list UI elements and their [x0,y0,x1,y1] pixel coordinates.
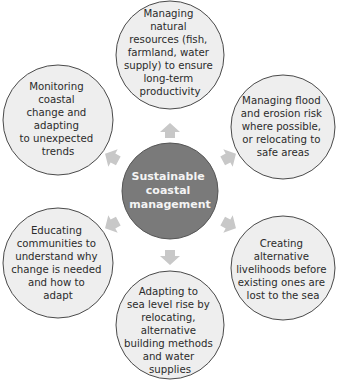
node-managing-flood-erosion-risk: Managing flood and erosion risk where po… [231,75,335,179]
arrow-down-icon [160,250,180,265]
node-adapting-to-sea-level-rise: Adapting to sea level rise by relocating… [116,271,224,379]
center-node: Sustainable coastal management [122,143,218,239]
node-monitoring-coastal-change: Monitoring coastal change and adapting t… [3,65,113,175]
node-creating-alternative-livelihoods: Creating alternative livelihoods before … [231,216,335,320]
arrow-down-right-icon [218,212,241,237]
arrow-up-icon [160,123,180,138]
node-educating-communities: Educating communities to understand why … [3,208,113,318]
sustainable-coastal-management-diagram: Sustainable coastal management Managing … [0,0,337,380]
node-managing-natural-resources: Managing natural resources (fish, farmla… [116,1,224,109]
